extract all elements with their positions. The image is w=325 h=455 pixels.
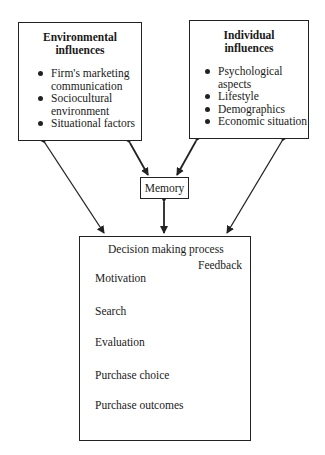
list-item: Psychological aspects <box>218 65 308 90</box>
decision-title: Decision making process <box>108 243 224 255</box>
individual-title: Individual influences <box>190 29 308 55</box>
step-purchase-outcomes: Purchase outcomes <box>95 399 183 411</box>
individual-title-line1: Individual <box>190 29 308 42</box>
list-item: Lifestyle <box>218 90 308 103</box>
step-search: Search <box>95 305 126 317</box>
environmental-list: Firm's marketing communication Sociocult… <box>19 67 141 130</box>
list-item: Economic situation <box>218 115 308 128</box>
list-item: Demographics <box>218 103 308 116</box>
step-motivation: Motivation <box>95 272 146 284</box>
environmental-title: Environmental influences <box>19 31 141 57</box>
step-purchase-choice: Purchase choice <box>95 369 169 381</box>
memory-label: Memory <box>145 182 185 194</box>
feedback-label: Feedback <box>198 259 242 271</box>
individual-list: Psychological aspects Lifestyle Demograp… <box>190 65 308 128</box>
environmental-title-line1: Environmental <box>19 31 141 44</box>
memory-box: Memory <box>140 177 189 199</box>
individual-influences-box: Individual influences Psychological aspe… <box>189 20 309 139</box>
environmental-title-line2: influences <box>19 44 141 57</box>
list-item: Situational factors <box>51 117 141 130</box>
individual-title-line2: influences <box>190 42 308 55</box>
step-evaluation: Evaluation <box>95 336 145 348</box>
list-item: Sociocultural environment <box>51 92 141 117</box>
list-item: Firm's marketing communication <box>51 67 141 92</box>
environmental-influences-box: Environmental influences Firm's marketin… <box>18 22 142 141</box>
